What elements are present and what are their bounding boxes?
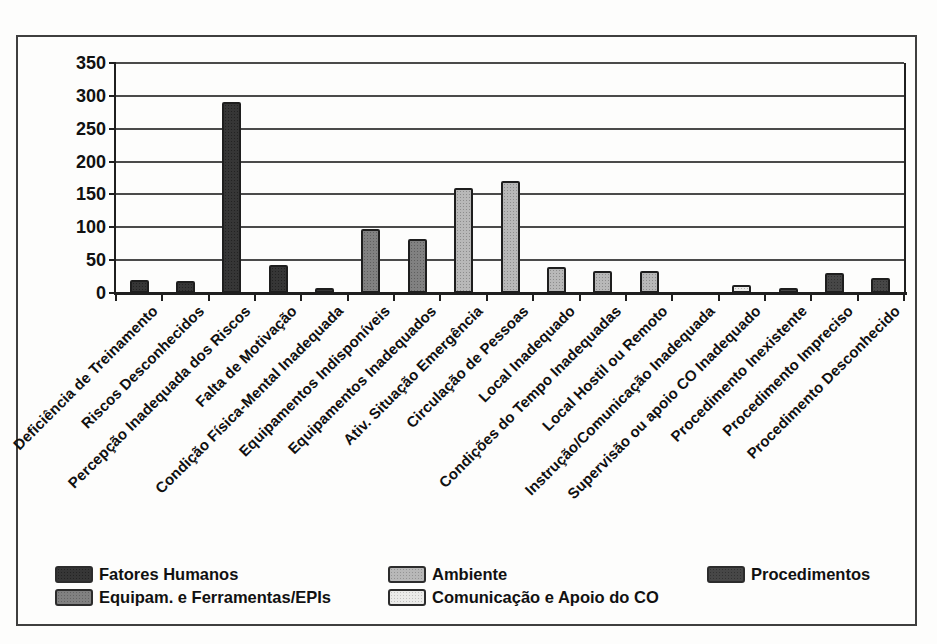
bar [315,288,334,293]
bar [547,267,566,293]
y-axis [114,63,117,295]
y-axis-tick-label: 350 [38,52,106,74]
x-axis-tick-mark [579,294,581,301]
bar [593,271,612,293]
x-axis-tick-mark [161,294,163,301]
plot-right-border [904,63,906,293]
y-axis-tick-label: 300 [38,85,106,107]
bar [732,285,751,293]
x-axis-tick-mark [903,294,905,301]
y-axis-tick-label: 50 [38,249,106,271]
legend-swatch [388,589,426,606]
legend-swatch [55,589,93,606]
x-axis-tick-mark [532,294,534,301]
x-axis-tick-mark [115,294,117,301]
legend-label: Procedimentos [751,565,870,584]
legend-label: Equipam. e Ferramentas/EPIs [99,588,331,607]
bar [501,181,520,293]
x-axis-tick-mark [439,294,441,301]
bar [871,278,890,293]
y-axis-tick-label: 200 [38,151,106,173]
bar [408,239,427,293]
bar [640,271,659,293]
legend-label: Ambiente [432,565,507,584]
legend-swatch [388,566,426,583]
x-axis-tick-mark [300,294,302,301]
bar [222,102,241,293]
scanned-page: 050100150200250300350Deficiência de Trei… [0,0,937,644]
x-axis-tick-mark [671,294,673,301]
bar [825,273,844,293]
y-axis-tick-label: 150 [38,183,106,205]
bar [454,188,473,293]
legend-label: Comunicação e Apoio do CO [432,588,659,607]
bar [361,229,380,293]
x-axis-tick-mark [486,294,488,301]
x-axis-tick-mark [393,294,395,301]
x-axis-tick-mark [625,294,627,301]
bar [269,265,288,293]
y-axis-tick-label: 0 [38,282,106,304]
legend-swatch [707,566,745,583]
x-axis-tick-mark [857,294,859,301]
y-axis-tick-label: 250 [38,118,106,140]
legend-swatch [55,566,93,583]
gridline-300 [116,95,904,97]
bar [176,281,195,293]
x-axis-tick-mark [208,294,210,301]
bar [130,280,149,293]
x-axis-tick-mark [347,294,349,301]
x-axis-tick-mark [254,294,256,301]
y-axis-tick-label: 100 [38,216,106,238]
x-axis-tick-mark [764,294,766,301]
legend-label: Fatores Humanos [99,565,238,584]
gridline-350 [116,62,904,64]
x-axis-tick-mark [810,294,812,301]
x-axis-tick-mark [718,294,720,301]
bar [779,288,798,293]
